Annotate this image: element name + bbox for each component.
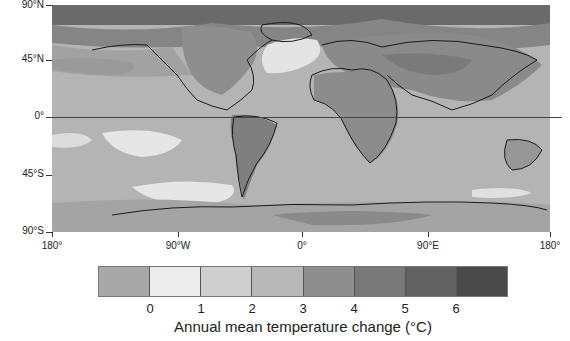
legend-bin-0-1 <box>150 267 201 296</box>
legend-bin-4-5 <box>355 267 406 296</box>
legend-tick-4: 4 <box>344 301 364 316</box>
equator-line <box>46 117 562 118</box>
x-tick-180w <box>52 232 53 237</box>
x-label-0: 0° <box>282 240 322 251</box>
legend-tick-2: 2 <box>242 301 262 316</box>
x-tick-0 <box>302 232 303 237</box>
x-label-90e: 90°E <box>408 240 448 251</box>
x-tick-90w <box>178 232 179 237</box>
legend-bin-3-4 <box>304 267 355 296</box>
x-label-180e: 180° <box>530 240 570 251</box>
x-tick-180e <box>550 232 551 237</box>
temperature-change-map <box>52 5 550 232</box>
legend-title: Annual mean temperature change (°C) <box>98 318 508 335</box>
x-label-90w: 90°W <box>158 240 198 251</box>
legend-tick-0: 0 <box>140 301 160 316</box>
x-label-180w: 180° <box>32 240 72 251</box>
x-tick-90e <box>428 232 429 237</box>
legend-bin-2-3 <box>252 267 303 296</box>
legend-tick-6: 6 <box>446 301 466 316</box>
legend-tick-1: 1 <box>191 301 211 316</box>
y-label-0: 0° <box>4 110 44 121</box>
legend-colorbar <box>98 266 508 297</box>
y-label-45n: 45°N <box>4 53 44 64</box>
y-label-45s: 45°S <box>4 168 44 179</box>
legend-tick-3: 3 <box>293 301 313 316</box>
legend-bin-above-6 <box>457 267 507 296</box>
y-label-90n: 90°N <box>4 0 44 10</box>
legend-bin-5-6 <box>406 267 457 296</box>
legend-bin-1-2 <box>201 267 252 296</box>
legend-bin-below-0 <box>99 267 150 296</box>
y-label-90s: 90°S <box>4 225 44 236</box>
map-shading <box>52 5 550 232</box>
legend-tick-5: 5 <box>395 301 415 316</box>
